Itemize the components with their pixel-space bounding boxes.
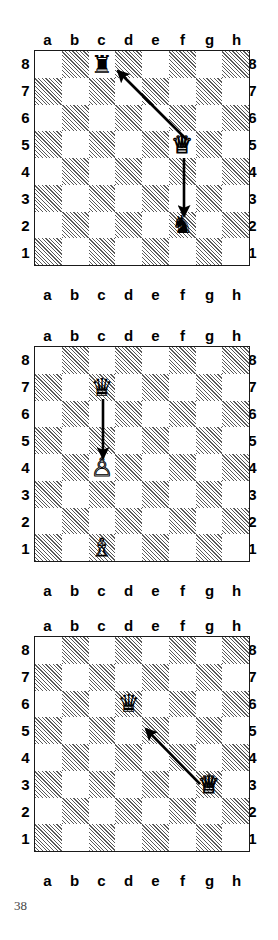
- square-f5[interactable]: [169, 427, 196, 454]
- square-c1[interactable]: [89, 824, 116, 851]
- square-g1[interactable]: [196, 238, 223, 265]
- square-g5[interactable]: [196, 131, 223, 158]
- square-h8[interactable]: [222, 51, 249, 78]
- square-g7[interactable]: [196, 374, 223, 401]
- square-a7[interactable]: [35, 664, 62, 691]
- square-c6[interactable]: [89, 691, 116, 718]
- square-e3[interactable]: [142, 185, 169, 212]
- square-a4[interactable]: [35, 158, 62, 185]
- square-g3[interactable]: [196, 185, 223, 212]
- square-d3[interactable]: [115, 771, 142, 798]
- square-f2[interactable]: [169, 508, 196, 535]
- square-b1[interactable]: [62, 534, 89, 561]
- piece-white-bishop-c1[interactable]: ♗: [89, 534, 116, 561]
- square-d5[interactable]: [115, 427, 142, 454]
- square-b6[interactable]: [62, 401, 89, 428]
- square-d7[interactable]: [115, 78, 142, 105]
- square-a6[interactable]: [35, 691, 62, 718]
- square-e8[interactable]: [142, 637, 169, 664]
- square-c5[interactable]: [89, 131, 116, 158]
- square-c6[interactable]: [89, 105, 116, 132]
- square-d4[interactable]: [115, 454, 142, 481]
- square-g8[interactable]: [196, 637, 223, 664]
- square-a4[interactable]: [35, 744, 62, 771]
- square-f2[interactable]: ♞: [169, 212, 196, 239]
- square-h3[interactable]: [222, 771, 249, 798]
- square-h8[interactable]: [222, 347, 249, 374]
- piece-white-queen-g3[interactable]: ♕: [196, 771, 223, 798]
- square-d8[interactable]: [115, 51, 142, 78]
- square-a1[interactable]: [35, 238, 62, 265]
- square-c8[interactable]: [89, 347, 116, 374]
- square-f5[interactable]: ♕: [169, 131, 196, 158]
- square-c1[interactable]: [89, 238, 116, 265]
- square-h7[interactable]: [222, 78, 249, 105]
- square-b5[interactable]: [62, 427, 89, 454]
- square-g3[interactable]: ♕: [196, 771, 223, 798]
- square-a5[interactable]: [35, 427, 62, 454]
- square-g2[interactable]: [196, 798, 223, 825]
- piece-black-queen-d6[interactable]: ♛: [115, 691, 142, 718]
- square-g6[interactable]: [196, 105, 223, 132]
- square-b4[interactable]: [62, 454, 89, 481]
- square-e8[interactable]: [142, 51, 169, 78]
- square-a8[interactable]: [35, 347, 62, 374]
- square-b3[interactable]: [62, 771, 89, 798]
- square-a7[interactable]: [35, 374, 62, 401]
- square-d7[interactable]: [115, 664, 142, 691]
- square-e4[interactable]: [142, 744, 169, 771]
- square-a2[interactable]: [35, 212, 62, 239]
- square-f7[interactable]: [169, 78, 196, 105]
- square-d6[interactable]: [115, 401, 142, 428]
- square-g5[interactable]: [196, 427, 223, 454]
- square-f6[interactable]: [169, 691, 196, 718]
- square-h3[interactable]: [222, 481, 249, 508]
- square-f3[interactable]: [169, 481, 196, 508]
- square-e8[interactable]: [142, 347, 169, 374]
- square-b7[interactable]: [62, 664, 89, 691]
- square-b8[interactable]: [62, 637, 89, 664]
- square-d2[interactable]: [115, 508, 142, 535]
- square-g4[interactable]: [196, 744, 223, 771]
- square-c3[interactable]: [89, 185, 116, 212]
- square-h3[interactable]: [222, 185, 249, 212]
- square-e6[interactable]: [142, 401, 169, 428]
- square-g5[interactable]: [196, 717, 223, 744]
- square-c7[interactable]: [89, 78, 116, 105]
- square-d6[interactable]: ♛: [115, 691, 142, 718]
- square-f2[interactable]: [169, 798, 196, 825]
- square-e2[interactable]: [142, 798, 169, 825]
- square-h1[interactable]: [222, 238, 249, 265]
- square-b2[interactable]: [62, 798, 89, 825]
- square-c4[interactable]: [89, 744, 116, 771]
- square-h5[interactable]: [222, 131, 249, 158]
- square-h1[interactable]: [222, 534, 249, 561]
- square-d7[interactable]: [115, 374, 142, 401]
- piece-black-rook-c8[interactable]: ♜: [89, 51, 116, 78]
- square-a1[interactable]: [35, 824, 62, 851]
- square-b1[interactable]: [62, 824, 89, 851]
- square-d2[interactable]: [115, 212, 142, 239]
- square-f3[interactable]: [169, 185, 196, 212]
- square-g6[interactable]: [196, 691, 223, 718]
- square-b5[interactable]: [62, 717, 89, 744]
- square-c3[interactable]: [89, 771, 116, 798]
- square-c5[interactable]: [89, 717, 116, 744]
- square-f1[interactable]: [169, 824, 196, 851]
- square-g4[interactable]: [196, 454, 223, 481]
- square-a8[interactable]: [35, 51, 62, 78]
- square-g2[interactable]: [196, 212, 223, 239]
- square-f6[interactable]: [169, 105, 196, 132]
- square-e1[interactable]: [142, 534, 169, 561]
- square-b6[interactable]: [62, 105, 89, 132]
- square-a7[interactable]: [35, 78, 62, 105]
- square-a2[interactable]: [35, 508, 62, 535]
- square-g8[interactable]: [196, 51, 223, 78]
- square-g7[interactable]: [196, 664, 223, 691]
- square-f1[interactable]: [169, 238, 196, 265]
- square-d4[interactable]: [115, 158, 142, 185]
- square-g3[interactable]: [196, 481, 223, 508]
- square-e4[interactable]: [142, 158, 169, 185]
- square-d2[interactable]: [115, 798, 142, 825]
- square-b3[interactable]: [62, 481, 89, 508]
